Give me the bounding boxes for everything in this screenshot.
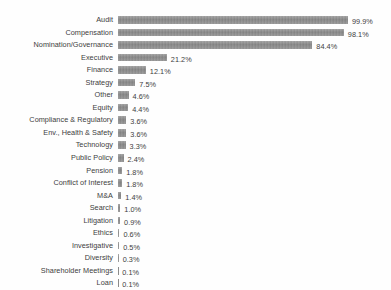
bar	[118, 54, 167, 62]
bar-track: 1.8%	[118, 167, 386, 175]
category-label: Investigative	[72, 240, 113, 253]
bar	[118, 116, 126, 124]
category-label: Strategy	[86, 77, 114, 90]
bar-track: 99.9%	[118, 16, 386, 24]
category-label: Compliance & Regulatory	[29, 114, 113, 127]
category-label: Compensation	[65, 27, 113, 40]
bar-row: Compensation98.1%	[0, 27, 391, 40]
bar	[118, 129, 126, 137]
bar-track: 1.8%	[118, 179, 386, 187]
bar-row: Other4.6%	[0, 89, 391, 102]
bar	[118, 254, 119, 262]
bar-row: Finance12.1%	[0, 64, 391, 77]
bar-row: Litigation0.9%	[0, 215, 391, 228]
bar-row: Audit99.9%	[0, 14, 391, 27]
plot-area: Audit99.9%Compensation98.1%Nomination/Go…	[0, 14, 391, 290]
bar	[118, 79, 135, 87]
category-label: Loan	[97, 277, 113, 290]
bar-track: 0.6%	[118, 229, 386, 237]
bar-row: Strategy7.5%	[0, 77, 391, 90]
category-label: Executive	[81, 52, 113, 65]
bar-track: 0.1%	[118, 279, 386, 287]
category-label: Ethics	[93, 227, 113, 240]
bar-row: Pension1.8%	[0, 165, 391, 178]
bar	[118, 141, 126, 149]
bar	[118, 242, 119, 250]
category-label: Conflict of Interest	[53, 177, 113, 190]
bar-row: Ethics0.6%	[0, 227, 391, 240]
category-label: Audit	[96, 14, 113, 27]
category-label: Other	[95, 89, 113, 102]
category-label: Env., Health & Safety	[43, 127, 113, 140]
bar	[118, 167, 122, 175]
bar-chart: Audit99.9%Compensation98.1%Nomination/Go…	[0, 0, 391, 290]
category-label: Nomination/Governance	[33, 39, 113, 52]
bar-row: Nomination/Governance84.4%	[0, 39, 391, 52]
bar-track: 84.4%	[118, 41, 386, 49]
bar-row: Technology3.3%	[0, 139, 391, 152]
bar-row: M&A1.4%	[0, 190, 391, 203]
category-label: Equity	[92, 102, 113, 115]
bar-track: 0.3%	[118, 254, 386, 262]
bar	[118, 41, 312, 49]
value-label: 0.1%	[122, 279, 139, 290]
bar-track: 0.5%	[118, 242, 386, 250]
bar-row: Shareholder Meetings0.1%	[0, 265, 391, 278]
bar-row: Diversity0.3%	[0, 252, 391, 265]
bar	[118, 204, 120, 212]
bar-track: 4.4%	[118, 104, 386, 112]
category-label: Shareholder Meetings	[41, 265, 113, 278]
bar	[118, 16, 348, 24]
category-label: Litigation	[83, 215, 113, 228]
bar	[118, 179, 122, 187]
bar-row: Investigative0.5%	[0, 240, 391, 253]
bar-track: 1.4%	[118, 192, 386, 200]
bar-row: Public Policy2.4%	[0, 152, 391, 165]
bar-track: 3.6%	[118, 129, 386, 137]
bar-track: 98.1%	[118, 29, 386, 37]
category-label: Diversity	[85, 252, 113, 265]
bar-row: Compliance & Regulatory3.6%	[0, 114, 391, 127]
bar-row: Loan0.1%	[0, 277, 391, 290]
bar	[118, 217, 120, 225]
bar-track: 1.0%	[118, 204, 386, 212]
bar-track: 12.1%	[118, 66, 386, 74]
bar-track: 7.5%	[118, 79, 386, 87]
bar	[118, 91, 129, 99]
bar-track: 3.6%	[118, 116, 386, 124]
bar	[118, 154, 124, 162]
category-label: M&A	[97, 190, 113, 203]
bar	[118, 229, 119, 237]
bar-row: Equity4.4%	[0, 102, 391, 115]
bar-track: 0.1%	[118, 267, 386, 275]
bar-row: Executive21.2%	[0, 52, 391, 65]
bar	[118, 66, 146, 74]
category-label: Technology	[76, 139, 113, 152]
category-label: Finance	[87, 64, 113, 77]
bar-track: 3.3%	[118, 141, 386, 149]
category-label: Public Policy	[71, 152, 113, 165]
bar-track: 0.9%	[118, 217, 386, 225]
bar-track: 21.2%	[118, 54, 386, 62]
category-label: Pension	[86, 165, 113, 178]
bar-row: Env., Health & Safety3.6%	[0, 127, 391, 140]
bar-row: Search1.0%	[0, 202, 391, 215]
category-label: Search	[90, 202, 113, 215]
bar	[118, 192, 121, 200]
bar-track: 4.6%	[118, 91, 386, 99]
bar	[118, 29, 344, 37]
bar-row: Conflict of Interest1.8%	[0, 177, 391, 190]
bar	[118, 104, 128, 112]
bar-track: 2.4%	[118, 154, 386, 162]
